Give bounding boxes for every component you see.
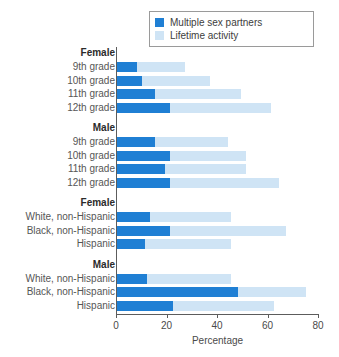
bar-group-title: Female	[81, 47, 115, 59]
bar-segment-lifetime-activity	[170, 178, 279, 188]
bar-stack	[117, 89, 241, 99]
bar-segment-multiple-sex-partners	[117, 62, 137, 72]
bar-row-label: 10th grade	[67, 75, 115, 87]
bar-stack	[117, 239, 231, 249]
bar-row: Hispanic	[0, 300, 339, 312]
bar-row-label: Black, non-Hispanic	[27, 225, 115, 237]
bar-stack	[117, 137, 228, 147]
bar-row: White, non-Hispanic	[0, 273, 339, 285]
bar-row-label: White, non-Hispanic	[26, 211, 115, 223]
bar-segment-lifetime-activity	[165, 164, 246, 174]
bar-row: 11th grade	[0, 163, 339, 175]
bar-group-title: Female	[81, 197, 115, 209]
bar-segment-lifetime-activity	[145, 239, 231, 249]
x-axis-tick	[116, 314, 117, 318]
bar-segment-multiple-sex-partners	[117, 226, 170, 236]
bar-segment-lifetime-activity	[147, 274, 230, 284]
bar-stack	[117, 301, 274, 311]
x-axis: 020406080 Percentage	[0, 314, 339, 357]
x-axis-tick-label: 80	[312, 320, 323, 331]
bar-segment-lifetime-activity	[173, 301, 274, 311]
plot-area: Female9th grade10th grade11th grade12th …	[0, 47, 339, 315]
stacked-bar-chart: Multiple sex partners Lifetime activity …	[0, 0, 339, 357]
bar-row-label: 12th grade	[67, 177, 115, 189]
bar-row-label: Black, non-Hispanic	[27, 286, 115, 298]
x-axis-tick	[167, 314, 168, 318]
bar-group: Male9th grade10th grade11th grade12th gr…	[0, 122, 339, 190]
bar-segment-multiple-sex-partners	[117, 274, 147, 284]
bar-row-label: Hispanic	[77, 238, 115, 250]
bar-segment-lifetime-activity	[155, 89, 241, 99]
bar-stack	[117, 103, 271, 113]
bar-stack	[117, 274, 231, 284]
bar-group-title: Male	[93, 259, 115, 271]
chart-legend: Multiple sex partners Lifetime activity	[149, 11, 314, 47]
bar-segment-lifetime-activity	[170, 103, 271, 113]
bar-row-label: 10th grade	[67, 150, 115, 162]
bar-row-label: White, non-Hispanic	[26, 273, 115, 285]
bar-segment-multiple-sex-partners	[117, 287, 238, 297]
bar-segment-multiple-sex-partners	[117, 178, 170, 188]
bar-row: 11th grade	[0, 88, 339, 100]
legend-swatch-dark-icon	[155, 18, 164, 27]
bar-segment-multiple-sex-partners	[117, 239, 145, 249]
legend-swatch-light-icon	[155, 31, 164, 40]
bar-segment-lifetime-activity	[150, 212, 231, 222]
x-axis-tick-label: 20	[161, 320, 172, 331]
legend-label-multiple-sex-partners: Multiple sex partners	[170, 16, 262, 29]
x-axis-tick-label: 0	[113, 320, 119, 331]
x-axis-tick-label: 40	[211, 320, 222, 331]
x-axis-tick	[217, 314, 218, 318]
bar-segment-lifetime-activity	[238, 287, 306, 297]
bar-segment-multiple-sex-partners	[117, 301, 173, 311]
bar-segment-multiple-sex-partners	[117, 89, 155, 99]
bar-group: FemaleWhite, non-HispanicBlack, non-Hisp…	[0, 197, 339, 252]
bar-group-title: Male	[93, 122, 115, 134]
legend-item-multiple-sex-partners: Multiple sex partners	[155, 16, 307, 29]
bar-segment-lifetime-activity	[170, 151, 246, 161]
bar-segment-multiple-sex-partners	[117, 137, 155, 147]
bar-row: 10th grade	[0, 150, 339, 162]
bar-row-label: 9th grade	[73, 136, 115, 148]
x-axis-title: Percentage	[116, 335, 319, 346]
bar-group: MaleWhite, non-HispanicBlack, non-Hispan…	[0, 259, 339, 314]
bar-row: 9th grade	[0, 61, 339, 73]
legend-item-lifetime-activity: Lifetime activity	[155, 29, 307, 42]
x-axis-tick	[268, 314, 269, 318]
legend-label-lifetime-activity: Lifetime activity	[170, 29, 238, 42]
bar-row: White, non-Hispanic	[0, 211, 339, 223]
x-axis-tick-label: 60	[262, 320, 273, 331]
bar-segment-multiple-sex-partners	[117, 76, 142, 86]
bar-row: Black, non-Hispanic	[0, 225, 339, 237]
bar-segment-lifetime-activity	[155, 137, 228, 147]
bar-stack	[117, 212, 231, 222]
bar-segment-multiple-sex-partners	[117, 151, 170, 161]
bar-stack	[117, 76, 210, 86]
bar-segment-multiple-sex-partners	[117, 164, 165, 174]
bar-segment-lifetime-activity	[137, 62, 185, 72]
bar-segment-lifetime-activity	[142, 76, 210, 86]
bar-segment-lifetime-activity	[170, 226, 286, 236]
x-axis-tick	[318, 314, 319, 318]
bar-stack	[117, 178, 279, 188]
bar-stack	[117, 226, 286, 236]
bar-row: 12th grade	[0, 102, 339, 114]
bar-stack	[117, 62, 185, 72]
bar-group: Female9th grade10th grade11th grade12th …	[0, 47, 339, 115]
bar-row: 10th grade	[0, 75, 339, 87]
bar-row: Hispanic	[0, 238, 339, 250]
bar-stack	[117, 151, 246, 161]
bar-row-label: 11th grade	[68, 163, 115, 175]
bar-row: 12th grade	[0, 177, 339, 189]
bar-row-label: 9th grade	[73, 61, 115, 73]
bar-stack	[117, 287, 306, 297]
bar-row-label: 11th grade	[68, 88, 115, 100]
bar-stack	[117, 164, 246, 174]
bar-row-label: 12th grade	[67, 102, 115, 114]
bar-segment-multiple-sex-partners	[117, 212, 150, 222]
bar-segment-multiple-sex-partners	[117, 103, 170, 113]
bar-row: Black, non-Hispanic	[0, 286, 339, 298]
bar-row-label: Hispanic	[77, 300, 115, 312]
bar-row: 9th grade	[0, 136, 339, 148]
